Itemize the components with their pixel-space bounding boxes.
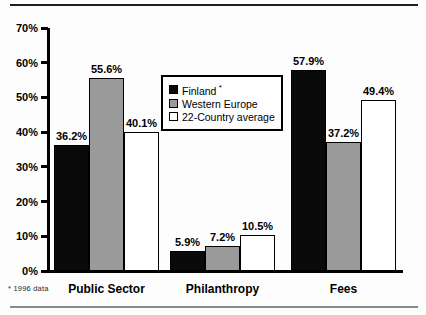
y-axis-tick-label: 40% — [2, 125, 38, 139]
y-axis-tick — [41, 96, 48, 99]
bar-value-label-finland-fees: 57.9% — [274, 55, 344, 68]
top-divider-rule — [10, 4, 418, 6]
y-axis-tick-label: 20% — [2, 195, 38, 209]
bar-value-label-22-country-average-philanthropy: 10.5% — [223, 220, 293, 233]
y-axis-tick-label: 50% — [2, 90, 38, 104]
bar-value-label-western-europe-public-sector: 55.6% — [72, 63, 142, 76]
y-axis-tick — [41, 27, 48, 30]
y-axis-tick-label: 30% — [2, 160, 38, 174]
y-axis-tick-label: 70% — [2, 21, 38, 35]
bottom-divider-rule — [10, 306, 418, 308]
footnote-marker: * — [216, 83, 221, 92]
legend-label-22-country-average: 22-Country average — [182, 111, 275, 123]
bar-22-country-average-public-sector — [124, 132, 159, 271]
bar-western-europe-philanthropy — [205, 246, 240, 271]
bar-22-country-average-philanthropy — [240, 235, 275, 271]
bar-22-country-average-fees — [361, 100, 396, 271]
bar-finland-philanthropy — [170, 251, 205, 271]
bar-western-europe-fees — [326, 142, 361, 271]
y-axis-tick — [41, 235, 48, 238]
bar-finland-fees — [291, 70, 326, 271]
legend-swatch-22-country-average — [169, 112, 178, 121]
legend-swatch-finland — [169, 85, 178, 94]
y-axis-tick-label: 60% — [2, 56, 38, 70]
y-axis-tick — [41, 61, 48, 64]
category-label-philanthropy: Philanthropy — [163, 282, 283, 296]
bar-finland-public-sector — [54, 145, 89, 271]
legend-box: Finland *Western Europe22-Country averag… — [161, 75, 283, 131]
legend-item-finland: Finland * — [169, 82, 276, 97]
legend-swatch-western-europe — [169, 99, 178, 108]
y-axis-tick-label: 10% — [2, 229, 38, 243]
legend-label-finland: Finland * — [182, 82, 222, 97]
y-axis-tick-label: 0% — [2, 264, 38, 278]
chart-figure: 0%10%20%30%40%50%60%70%36.2%55.6%40.1%Pu… — [0, 0, 426, 315]
legend-item-western-europe: Western Europe — [169, 98, 276, 110]
category-label-fees: Fees — [284, 282, 404, 296]
legend-label-western-europe: Western Europe — [182, 98, 258, 110]
y-axis-tick — [41, 270, 48, 273]
category-label-public-sector: Public Sector — [47, 282, 167, 296]
y-axis-tick — [41, 165, 48, 168]
legend-item-22-country-average: 22-Country average — [169, 111, 276, 123]
bar-value-label-22-country-average-fees: 49.4% — [344, 85, 414, 98]
bar-western-europe-public-sector — [89, 78, 124, 271]
y-axis-tick — [41, 200, 48, 203]
footnote: * 1996 data — [8, 284, 49, 293]
